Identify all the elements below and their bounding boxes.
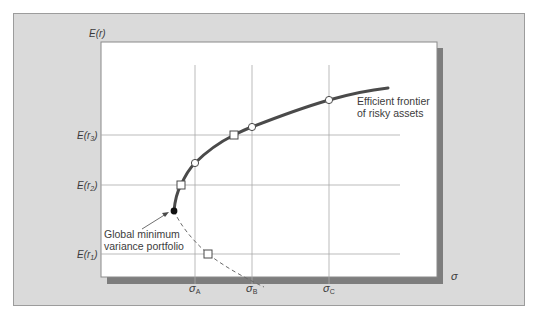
gmv-annotation-line1: Global minimum <box>104 228 180 240</box>
square-marker-er2 <box>177 181 185 189</box>
circle-marker-sigma-a <box>191 159 198 166</box>
y-axis-label: E(r) <box>89 28 106 39</box>
y-tick-er2: E(r2) <box>77 180 98 192</box>
circle-marker-sigma-c <box>325 96 332 103</box>
circle-marker-sigma-b <box>248 123 255 130</box>
square-marker-er3 <box>230 131 238 139</box>
y-tick-er3: E(r3) <box>77 130 98 142</box>
x-axis-label: σ <box>451 270 458 282</box>
efficient-frontier-chart: E(r) E(r3) E(r2) E(r1) σA σB σC σ Effici… <box>0 0 539 319</box>
gmv-marker-filled <box>171 208 178 215</box>
square-marker-er1 <box>204 250 212 258</box>
frontier-annotation-line2: of risky assets <box>357 107 424 119</box>
y-tick-er1: E(r1) <box>77 249 98 261</box>
gmv-annotation-line2: variance portfolio <box>104 240 184 252</box>
frontier-annotation-line1: Efficient frontier <box>357 95 430 107</box>
